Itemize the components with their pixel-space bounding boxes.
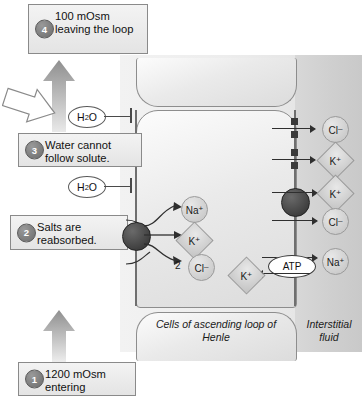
water-block-line-upper (104, 116, 131, 117)
chloride-efflux-arrow (272, 128, 315, 129)
callout-step-4-text: 100 mOsm leaving the loop (55, 10, 133, 35)
step-badge-4: 4 (35, 20, 54, 39)
label-cells-of-ascending-loop: Cells of ascending loop of Henle (150, 318, 282, 344)
sodium-potassium-atpase: ATP (268, 255, 316, 278)
potassium-cotransport-charge: + (337, 188, 342, 197)
potassium-channel-segment-top (291, 149, 298, 156)
water-label-upper: H2O (68, 106, 106, 128)
water-subscript-upper: 2 (85, 113, 89, 122)
chloride-channel-segment-top (291, 118, 298, 125)
water-block-bar-lower (130, 178, 132, 193)
callout-step-1[interactable]: 1 1200 mOsm entering (18, 362, 136, 396)
potassium-efflux-arrow (272, 159, 315, 160)
potassium-cotransport-arrow (272, 192, 317, 193)
chloride-charge: – (204, 262, 208, 271)
apical-transport-arrows (142, 196, 184, 268)
label-interstitial-fluid: Interstitial fluid (300, 318, 358, 344)
ion-chloride-cotransported: Cl– (322, 208, 349, 235)
callout-step-2[interactable]: 2 Salts are reabsorbed. (10, 215, 128, 250)
ion-sodium-pumped-out: Na+ (322, 248, 349, 275)
callout-step-2-text: Salts are reabsorbed. (37, 221, 97, 246)
step-badge-2: 2 (17, 223, 36, 242)
filtrate-inflow-arrow (42, 310, 76, 362)
potassium-channel-segment-bottom (291, 162, 298, 169)
water-block-line-lower (104, 186, 131, 187)
water-label-lower: H2O (68, 176, 106, 198)
chloride-basal-charge: – (338, 124, 342, 133)
step-badge-3: 3 (25, 141, 44, 160)
potassium-pump-charge: + (248, 270, 253, 279)
ion-chloride-interstitial: Cl– (322, 116, 349, 143)
callout-step-3-text: Water cannot follow solute. (45, 139, 111, 164)
potassium-pump-influx-arrow (258, 273, 310, 274)
callout-step-3[interactable]: 3 Water cannot follow solute. (18, 133, 142, 167)
solute-movement-open-arrow (2, 86, 58, 128)
chloride-cotransport-arrow (272, 220, 317, 221)
potassium-basal-charge: + (337, 155, 342, 164)
chloride-channel-segment-bottom (291, 131, 298, 138)
epithelial-cell-upper (136, 58, 297, 107)
water-subscript-lower: 2 (85, 183, 89, 192)
sodium-charge: + (199, 204, 204, 213)
potassium-charge: + (196, 235, 201, 244)
step-badge-1: 1 (25, 370, 44, 389)
chloride-count-label: 2 (175, 260, 181, 271)
ion-chloride-reabsorbed: Cl– (188, 254, 215, 281)
ion-sodium-reabsorbed: Na+ (181, 196, 208, 223)
sodium-pump-charge: + (340, 256, 345, 265)
chloride-cotransport-charge: – (338, 216, 342, 225)
callout-step-1-text: 1200 mOsm entering (45, 368, 106, 393)
water-block-bar-upper (130, 108, 132, 123)
callout-step-4[interactable]: 4 100 mOsm leaving the loop (28, 4, 148, 54)
